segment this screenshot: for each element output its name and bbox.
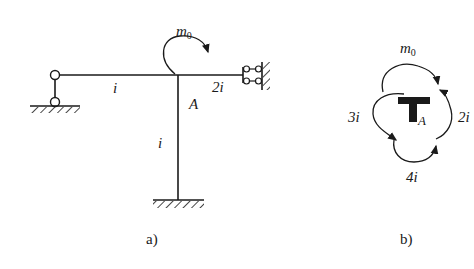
figure-a: m0 i 2i A i a) (30, 23, 270, 248)
joint-label-a: A (188, 96, 199, 112)
right-slider-support (243, 62, 270, 90)
moment-label-b: m0 (400, 40, 416, 58)
left-moment-label: 3i (347, 109, 360, 125)
right-arrow-2i (436, 90, 452, 139)
figure-b: m0 A 3i 2i 4i b) (347, 40, 470, 248)
moment-label-a: m0 (176, 23, 192, 41)
moment-arrow-m0 (164, 36, 208, 74)
joint-label-b: A (417, 113, 426, 128)
column-stiffness: i (158, 135, 162, 151)
structure-diagram: m0 i 2i A i a) m0 A 3i 2i 4i b) (0, 0, 474, 269)
caption-b: b) (400, 231, 413, 248)
m0-arrow-b (382, 64, 438, 92)
fixed-support-bottom (153, 200, 204, 208)
bottom-arrow-4i (394, 140, 436, 162)
right-moment-label: 2i (458, 109, 470, 125)
caption-a: a) (146, 231, 158, 248)
left-link-support (30, 71, 80, 114)
right-beam-stiffness: 2i (212, 79, 224, 95)
left-beam-stiffness: i (113, 80, 117, 96)
bottom-moment-label: 4i (406, 169, 418, 185)
